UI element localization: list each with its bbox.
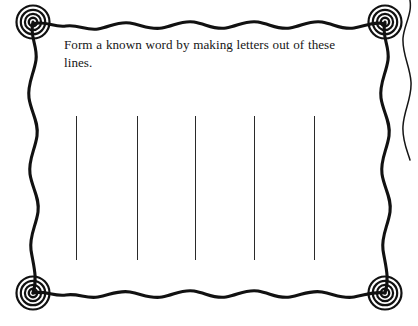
answer-lines-group	[0, 0, 418, 326]
answer-line[interactable]	[76, 116, 77, 260]
answer-line[interactable]	[195, 116, 196, 260]
answer-line[interactable]	[314, 116, 315, 260]
answer-line[interactable]	[137, 116, 138, 260]
worksheet-card: Form a known word by making letters out …	[0, 0, 418, 326]
answer-line[interactable]	[254, 116, 255, 260]
